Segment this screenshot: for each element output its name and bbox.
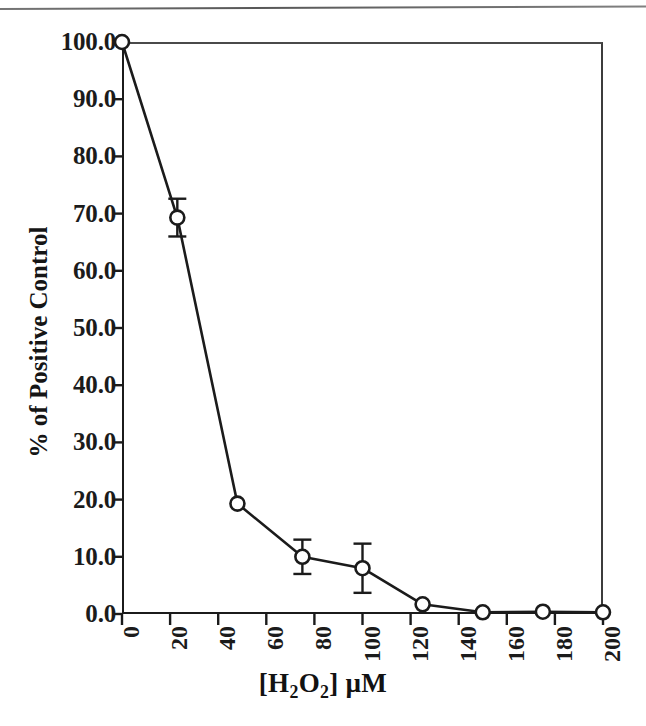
x-tick-marks — [122, 614, 603, 625]
data-point-marker — [115, 35, 129, 49]
x-axis-title-sub1: 2 — [289, 682, 298, 702]
data-point-marker — [230, 497, 244, 511]
x-tick-label: 0 — [118, 626, 145, 638]
x-tick-label: 120 — [406, 626, 433, 662]
x-tick-label: 140 — [454, 626, 481, 662]
x-tick-label: 180 — [550, 626, 577, 662]
x-axis-title-mid: O — [299, 668, 320, 698]
error-bars — [168, 199, 371, 593]
data-point-marker — [295, 550, 309, 564]
chart-graphics — [0, 0, 646, 726]
x-tick-label: 80 — [310, 626, 337, 650]
x-axis-title-suffix: ] µM — [329, 668, 387, 698]
data-point-marker — [356, 561, 370, 575]
x-tick-label: 100 — [358, 626, 385, 662]
x-axis-title-prefix: [H — [259, 668, 290, 698]
y-tick-marks — [113, 42, 122, 614]
data-point-marker — [596, 605, 610, 619]
data-point-marker — [170, 211, 184, 225]
x-axis-title: [H2O2] µM — [0, 668, 646, 703]
data-point-marker — [536, 605, 550, 619]
data-line — [122, 42, 603, 612]
data-point-markers — [115, 35, 610, 619]
figure-page: 0.010.020.030.040.050.060.070.080.090.01… — [0, 0, 646, 726]
x-tick-label: 20 — [166, 626, 193, 650]
data-point-marker — [416, 597, 430, 611]
x-tick-label: 60 — [262, 626, 289, 650]
x-tick-label: 160 — [502, 626, 529, 662]
data-point-marker — [476, 605, 490, 619]
x-axis-title-sub2: 2 — [320, 682, 329, 702]
x-tick-label: 200 — [599, 626, 626, 662]
x-tick-label: 40 — [214, 626, 241, 650]
